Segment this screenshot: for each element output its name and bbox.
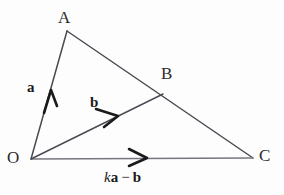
vertex-label-O: O — [7, 149, 19, 166]
expression-scalar-k: k — [104, 169, 111, 185]
vector-diagram: A B C O a b ka−b — [0, 0, 284, 195]
vector-a-arrowhead — [44, 90, 57, 113]
vertex-label-B: B — [161, 65, 172, 82]
diagram-canvas — [0, 0, 284, 195]
vector-expression-label: ka−b — [104, 170, 141, 185]
vertex-label-C: C — [259, 147, 270, 164]
expression-vector-b: b — [133, 169, 141, 185]
vector-label-a: a — [27, 80, 35, 95]
vector-b-arrowhead — [96, 109, 118, 127]
expression-operator: − — [118, 169, 132, 185]
vector-label-b: b — [90, 95, 98, 110]
vector-ka-minus-b-arrowhead — [129, 149, 147, 166]
vertex-label-A: A — [58, 9, 70, 26]
